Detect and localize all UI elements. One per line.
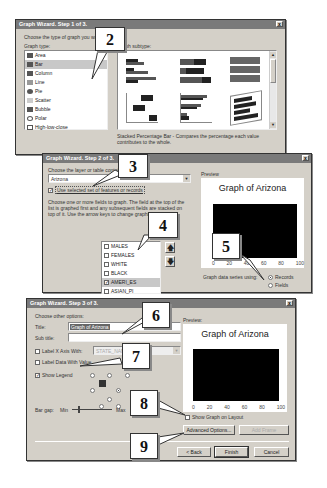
callout-5-pointer [240,254,270,284]
step3-close-button[interactable]: x [286,300,293,306]
step3-title: Graph Wizard. Step 3 of 3. [30,300,98,306]
subtype-3d-bar[interactable] [230,90,262,126]
legend-position-grid[interactable] [90,372,120,398]
graph-type-bubble[interactable]: Bubble [25,105,107,114]
callout-5: 5 [212,233,240,259]
callout-8-pointer [158,400,188,420]
legend-pos-bc[interactable] [99,404,104,409]
callout-2: 2 [95,27,125,51]
step1-title: Graph Wizard. Step 1 of 3. [19,21,87,27]
subtype-overlap-bar[interactable] [180,93,212,123]
callout-4: 4 [148,212,178,238]
callout-7-pointer [80,358,125,368]
scroll-down-arrow-icon[interactable]: ▼ [270,122,276,128]
bar-gap-min-label: Min [60,407,68,413]
use-selected-check-icon[interactable]: ✓ [48,188,53,193]
scroll-up-arrow-icon[interactable]: ▲ [270,52,276,58]
advanced-options-button[interactable]: Advanced Options... [183,425,235,435]
subtype-description: Stacked Percentage Bar - Compares the pe… [117,133,267,145]
series-records-radio[interactable]: Records [268,274,294,280]
pie-chart-icon [27,89,33,94]
step1-titlebar: Graph Wizard. Step 1 of 3. x [16,20,285,29]
step1-prompt: Choose the type of graph you want: [24,34,103,40]
bubble-chart-icon [27,107,33,112]
legend-pos-tl[interactable] [90,373,95,378]
high-low-close-icon [27,125,33,130]
bar-gap-slider-thumb[interactable] [78,406,80,413]
step3-preview-label: Preview: [183,317,202,323]
bar-gap-max-label: Max [116,407,125,413]
subtype-stacked-bar[interactable] [180,57,212,85]
field-black[interactable]: BLACK [102,269,160,278]
step3-preview-title: Graph of Arizona [183,329,287,339]
dropdown-arrow-icon[interactable]: ▼ [183,175,190,182]
layer-select-value: Arizona [51,176,68,182]
add-frame-button[interactable]: Add Frame [239,425,289,435]
graph-type-scatter[interactable]: Scatter [25,96,107,105]
graph-type-pie[interactable]: Pie [25,87,107,96]
show-on-layout-checkbox[interactable]: Show Graph on Layout [185,414,243,420]
subtype-stacked-percentage-bar[interactable] [230,55,262,85]
finish-button[interactable]: Finish [215,447,248,457]
column-chart-icon [27,71,33,76]
area-chart-icon [27,53,33,58]
legend-pos-mr[interactable] [116,388,121,393]
callout-6: 6 [142,302,170,328]
graph-type-high-low-close[interactable]: High-low-close [25,123,107,132]
field-asian-pi[interactable]: ASIAN_PI [102,287,160,296]
graph-type-label: Graph type: [24,43,50,49]
callout-7: 7 [122,343,150,369]
title-label: Title: [35,324,46,330]
step3-prompt: Choose other options: [35,313,84,319]
subtitle-label: Sub title: [35,335,54,341]
line-chart-icon [27,80,33,85]
graph-subtype-gallery[interactable]: ▲ ▼ [117,50,277,130]
subtype-clustered-bar[interactable] [126,57,158,85]
bar-gap-slider[interactable] [72,409,112,410]
chart-thumbnail-icon [99,380,106,387]
step2-preview-title: Graph of Arizona [201,183,304,193]
bar-chart-icon [27,62,33,67]
series-fields-radio[interactable]: Fields [268,282,288,288]
subtype-scrollbar[interactable]: ▲ ▼ [269,51,276,129]
callout-9: 9 [130,433,158,459]
step3-preview: Graph of Arizona 020406080100 [183,324,287,412]
step2-close-button[interactable]: x [302,155,309,161]
callout-9-pointer [158,433,188,448]
legend-pos-bl[interactable] [107,397,112,402]
title-input-value: Graph of Arizona [70,324,110,330]
show-legend-checkbox[interactable]: ✓Show Legend [35,372,73,378]
step3-preview-bar [193,349,279,401]
legend-pos-tr[interactable] [125,373,130,378]
label-xaxis-checkbox[interactable]: Label X Axis With: [35,348,82,354]
callout-8: 8 [130,390,158,416]
step2-titlebar: Graph Wizard. Step 2 of 3. x [43,154,311,163]
polar-chart-icon [27,116,33,121]
cancel-button[interactable]: Cancel [254,447,289,457]
scroll-thumb[interactable] [270,59,276,83]
legend-pos-ml[interactable] [90,388,95,393]
step2-title: Graph Wizard. Step 2 of 3. [46,155,114,161]
move-down-button[interactable]: 🡇 [165,256,175,267]
legend-pos-tc[interactable] [107,373,112,378]
back-button[interactable]: < Back [177,447,211,457]
step1-close-button[interactable]: x [276,21,283,27]
scatter-chart-icon [27,98,33,103]
callout-2-pointer [85,45,125,85]
dropdown-arrow-icon[interactable]: ▼ [173,347,180,354]
field-white[interactable]: WHITE [102,260,160,269]
subtype-3d-offset-bar[interactable] [126,93,158,123]
bar-gap-label: Bar gap: [35,407,54,413]
field-ameri-es[interactable]: ✓AMERI_ES [102,278,160,287]
graph-type-polar[interactable]: Polar [25,114,107,123]
step1-dialog: Graph Wizard. Step 1 of 3. x Choose the … [15,19,286,155]
callout-3: 3 [118,154,148,178]
callout-4-pointer [138,235,158,255]
move-up-button[interactable]: 🡅 [165,242,175,253]
step2-preview-label: Preview [201,171,219,177]
